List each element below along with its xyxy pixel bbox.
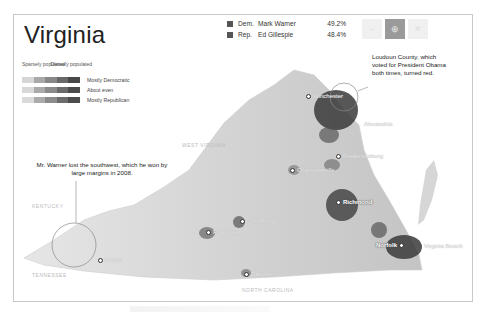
city-roanoke[interactable]: Roanoke — [206, 229, 237, 235]
zoom-in-button[interactable]: ⊕ — [385, 19, 405, 39]
city-dot-icon — [336, 200, 341, 205]
page-title: Virginia — [24, 21, 105, 49]
city-lynchburg[interactable]: Lynchburg — [240, 218, 275, 224]
caption-faded — [130, 306, 270, 312]
legend-row-democratic: Mostly Democratic — [22, 75, 130, 85]
city-norfolk[interactable]: Norfolk — [376, 242, 406, 248]
label-north-carolina: NORTH CAROLINA — [242, 287, 294, 293]
city-dot-icon — [399, 243, 404, 248]
zoom-out-icon: − — [369, 24, 374, 34]
city-dot-icon — [98, 258, 103, 263]
zoom-out-button[interactable]: − — [362, 19, 382, 39]
city-dot-icon — [240, 219, 245, 224]
result-row-dem: Dem. Mark Warner 49.2% — [227, 18, 346, 29]
dem-swatch — [227, 21, 233, 27]
legend-row-even: About even — [22, 85, 130, 95]
city-dot-icon — [290, 168, 295, 173]
label-kentucky: KENTUCKY — [32, 203, 63, 209]
city-dot-icon — [336, 154, 341, 159]
zoom-controls: − ⊕ ✕ — [362, 19, 428, 39]
city-dot-icon — [244, 272, 249, 277]
zoom-in-icon: ⊕ — [391, 24, 399, 34]
result-row-rep: Rep. Ed Gillespie 48.4% — [227, 29, 346, 40]
rep-swatch — [227, 32, 233, 38]
city-fredericksburg[interactable]: Fredericksburg — [336, 153, 383, 159]
map-frame: Virginia Sparsely populated Densely popu… — [13, 14, 473, 302]
city-alexandria[interactable]: Alexandria — [364, 121, 392, 127]
legend-row-republican: Mostly Republican — [22, 95, 130, 105]
city-richmond[interactable]: Richmond — [336, 199, 372, 205]
city-dot-icon — [306, 94, 311, 99]
city-dot-icon — [206, 230, 211, 235]
legend: Sparsely populated Densely populated Mos… — [22, 61, 130, 105]
label-west-virginia: WEST VIRGINIA — [182, 142, 226, 148]
city-charlottesville[interactable]: Charlottesville — [290, 167, 335, 173]
city-danville[interactable]: Danville — [244, 271, 272, 277]
city-bristol[interactable]: Bristol — [98, 257, 122, 263]
reset-button[interactable]: ✕ — [408, 19, 428, 39]
label-tennessee: TENNESSEE — [32, 272, 67, 278]
city-virginia-beach[interactable]: Virginia Beach — [424, 243, 463, 249]
legend-dense-label: Densely populated — [51, 61, 92, 67]
city-winchester[interactable]: Winchester — [306, 93, 343, 99]
annotation-loudoun: Loudoun County, which voted for Presiden… — [372, 53, 452, 77]
annotation-southwest: Mr. Warner lost the southwest, which he … — [32, 161, 172, 177]
results-table: Dem. Mark Warner 49.2% Rep. Ed Gillespie… — [227, 18, 346, 40]
close-icon: ✕ — [414, 24, 422, 34]
eastern-shore — [418, 160, 438, 225]
